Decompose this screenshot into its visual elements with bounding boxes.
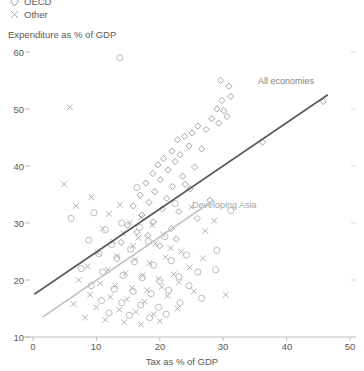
data-point — [94, 305, 100, 311]
series-oecd — [118, 77, 326, 249]
data-point — [200, 256, 206, 262]
data-point — [152, 189, 158, 195]
data-point — [176, 209, 182, 215]
data-point — [169, 183, 175, 189]
data-point — [142, 299, 148, 305]
data-point — [223, 292, 229, 298]
data-point — [172, 158, 178, 164]
data-point — [166, 287, 172, 293]
data-point — [218, 77, 224, 83]
series-circles — [68, 55, 234, 321]
data-point — [226, 83, 232, 89]
data-point — [165, 167, 171, 173]
data-point — [148, 291, 154, 297]
data-point — [139, 212, 145, 218]
data-point — [61, 181, 67, 187]
data-point — [82, 315, 88, 321]
data-point — [194, 215, 200, 221]
data-point — [187, 265, 193, 271]
data-point — [195, 269, 201, 275]
scatter-chart: OECD Other Expenditure as % of GDP Tax a… — [0, 0, 364, 371]
data-point — [119, 300, 125, 306]
data-point — [121, 319, 127, 325]
data-point — [181, 133, 187, 139]
data-point — [157, 177, 163, 183]
data-point — [214, 247, 220, 253]
data-point — [150, 262, 156, 268]
data-point — [145, 232, 151, 238]
data-point — [163, 311, 169, 317]
data-point — [133, 309, 139, 315]
data-point — [76, 277, 82, 283]
data-point — [135, 235, 141, 241]
data-point — [136, 224, 142, 230]
data-point — [182, 181, 188, 187]
data-point — [106, 211, 112, 217]
data-point — [130, 203, 136, 209]
data-point — [191, 289, 197, 295]
data-point — [172, 201, 178, 207]
data-point — [118, 239, 124, 245]
data-point — [228, 93, 234, 99]
data-point — [137, 192, 143, 198]
data-point — [155, 162, 161, 168]
data-point — [169, 148, 175, 154]
data-point — [134, 185, 140, 191]
data-point — [159, 284, 165, 290]
data-point — [71, 301, 77, 307]
data-point — [212, 267, 218, 273]
data-point — [108, 294, 114, 300]
data-point — [126, 312, 132, 318]
data-point — [195, 123, 201, 129]
data-point — [224, 113, 230, 119]
data-point — [150, 170, 156, 176]
data-point — [203, 126, 209, 132]
data-point — [176, 279, 182, 285]
data-point — [106, 310, 112, 316]
data-point — [86, 237, 92, 243]
data-point — [119, 220, 125, 226]
data-point — [67, 104, 73, 110]
data-point — [116, 307, 122, 313]
data-point — [102, 227, 108, 233]
data-point — [161, 155, 167, 161]
data-point — [199, 146, 205, 152]
data-point — [168, 258, 174, 264]
data-point — [214, 106, 220, 112]
data-point — [228, 207, 234, 213]
data-point — [138, 322, 144, 328]
data-point — [78, 266, 84, 272]
data-point — [186, 143, 192, 149]
data-point — [138, 302, 144, 308]
data-point — [186, 283, 192, 289]
data-point — [97, 281, 103, 287]
data-point — [199, 295, 205, 301]
data-point — [177, 300, 183, 306]
data-point — [216, 120, 222, 126]
data-point — [189, 204, 195, 210]
data-point — [128, 246, 134, 252]
data-point — [117, 202, 123, 208]
data-point — [68, 215, 74, 221]
data-point — [209, 116, 215, 122]
data-point — [117, 55, 123, 61]
data-point — [221, 108, 227, 114]
data-point — [177, 152, 183, 158]
data-point — [175, 306, 181, 312]
data-point — [85, 264, 91, 270]
data-point — [87, 292, 93, 298]
data-point — [146, 199, 152, 205]
data-point — [212, 218, 218, 224]
data-point — [219, 97, 225, 103]
data-point — [174, 137, 180, 143]
data-point — [143, 180, 149, 186]
data-point — [203, 228, 209, 234]
data-point — [189, 130, 195, 136]
data-point — [155, 304, 161, 310]
trendline-all-economies — [34, 95, 328, 295]
data-point — [157, 318, 163, 324]
data-point — [151, 311, 157, 317]
data-point — [165, 293, 171, 299]
data-point — [183, 252, 189, 258]
data-point — [102, 317, 108, 323]
